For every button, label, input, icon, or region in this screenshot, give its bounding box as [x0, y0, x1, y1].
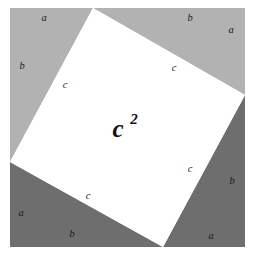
- side-label-b-bottom: b: [69, 228, 74, 239]
- side-label-a-bottom-left: a: [18, 207, 23, 218]
- side-label-a-top-left: a: [41, 12, 46, 23]
- area-label-c: c: [112, 115, 123, 142]
- side-label-c-right-upper: c: [172, 62, 177, 73]
- side-label-a-bottom-right: a: [208, 230, 213, 241]
- side-label-c-right-lower: c: [188, 163, 193, 174]
- area-label-exponent: 2: [129, 111, 138, 127]
- side-label-b-right-lower: b: [229, 175, 234, 186]
- diagram-canvas: a b c b a c c b a c a b c 2: [0, 0, 253, 262]
- side-label-b-top-right: b: [187, 12, 192, 23]
- side-label-c-left-upper: c: [63, 79, 68, 90]
- side-label-a-right-upper: a: [228, 24, 233, 35]
- pythagorean-diagram: a b c b a c c b a c a b c 2: [0, 0, 253, 262]
- side-label-b-left-upper: b: [19, 60, 24, 71]
- side-label-c-bottom-left: c: [86, 190, 91, 201]
